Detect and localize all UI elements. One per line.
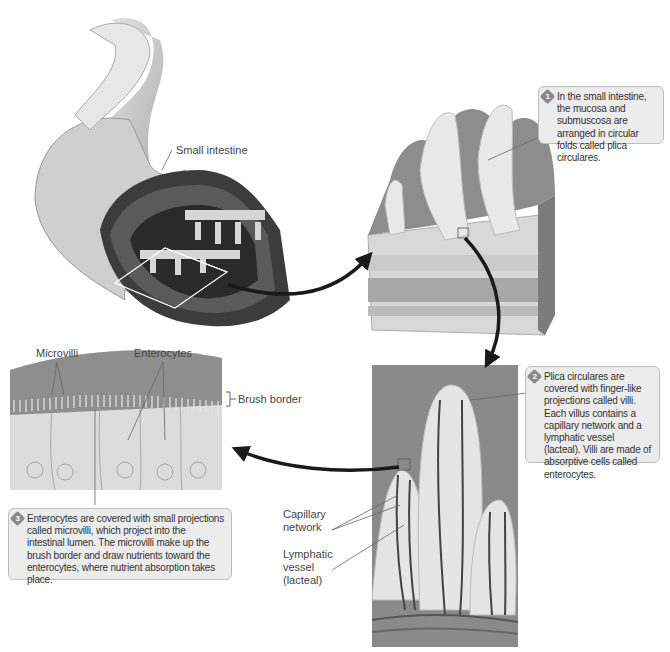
- small-intestine-illustration: [35, 18, 290, 326]
- step-2-badge-icon: 2: [527, 369, 543, 385]
- capillary-network-label: Capillary network: [283, 508, 326, 534]
- callout-2: 2 Plica circulares are covered with fing…: [525, 366, 660, 463]
- plica-circulares-illustration: [368, 105, 555, 335]
- brush-border-label: Brush border: [238, 393, 302, 406]
- step-1-badge-icon: 1: [540, 89, 556, 105]
- lymphatic-vessel-label: Lymphatic vessel (lacteal): [283, 548, 333, 587]
- enterocytes-label: Enterocytes: [134, 347, 192, 360]
- callout-3: 3 Enterocytes are covered with small pro…: [8, 508, 232, 580]
- enterocytes-illustration: [10, 350, 236, 490]
- step-3-badge-icon: 3: [10, 511, 26, 527]
- callout-3-text: Enterocytes are covered with small proje…: [27, 513, 224, 585]
- microvilli-label: Microvilli: [36, 347, 78, 360]
- small-intestine-label: Small intestine: [176, 144, 248, 157]
- callout-1: 1 In the small intestine, the mucosa and…: [538, 86, 664, 144]
- callout-2-text: Plica circulares are covered with finger…: [544, 371, 651, 480]
- villi-illustration: [372, 365, 518, 647]
